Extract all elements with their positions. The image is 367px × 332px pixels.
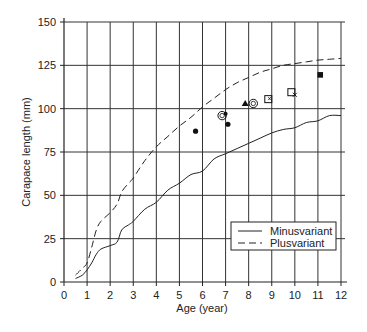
x-axis-ticks: 0123456789101112 [61,282,347,301]
point-filled-circle [225,122,230,127]
x-tick-label: 12 [335,289,347,301]
legend-label-minusvariant: Minusvariant [270,225,332,237]
x-tick-label: 6 [199,289,205,301]
y-tick-label: 125 [38,59,56,71]
growth-chart: 0123456789101112 0255075100125150 Age (y… [0,0,367,332]
point-filled-circle [224,112,228,116]
point-x-mark [268,97,271,100]
point-open-square [288,89,295,96]
point-filled-circle [193,129,198,134]
legend-label-plusvariant: Plusvariant [270,237,324,249]
point-open-square [265,96,272,103]
point-filled-triangle [242,100,249,106]
y-tick-label: 75 [44,146,56,158]
x-tick-label: 8 [246,289,252,301]
x-tick-label: 0 [61,289,67,301]
y-axis-ticks: 0255075100125150 [38,16,64,288]
x-tick-label: 7 [223,289,229,301]
series-minusvariant [76,115,341,278]
legend: Minusvariant Plusvariant [231,222,336,250]
x-tick-label: 4 [153,289,159,301]
y-tick-label: 25 [44,233,56,245]
point-open-circle-inner [251,101,255,105]
x-tick-label: 3 [130,289,136,301]
x-tick-label: 2 [107,289,113,301]
x-tick-label: 1 [84,289,90,301]
y-tick-label: 50 [44,189,56,201]
y-axis-label: Carapace length (mm) [20,97,32,206]
x-tick-label: 10 [289,289,301,301]
point-filled-square [317,72,323,78]
y-tick-label: 0 [50,276,56,288]
x-tick-label: 11 [312,289,323,301]
data-points [193,72,323,134]
point-open-circle [249,99,257,107]
x-tick-label: 5 [176,289,182,301]
y-tick-label: 100 [38,103,56,115]
y-tick-label: 150 [38,16,56,28]
x-tick-label: 9 [269,289,275,301]
x-axis-label: Age (year) [176,302,227,314]
